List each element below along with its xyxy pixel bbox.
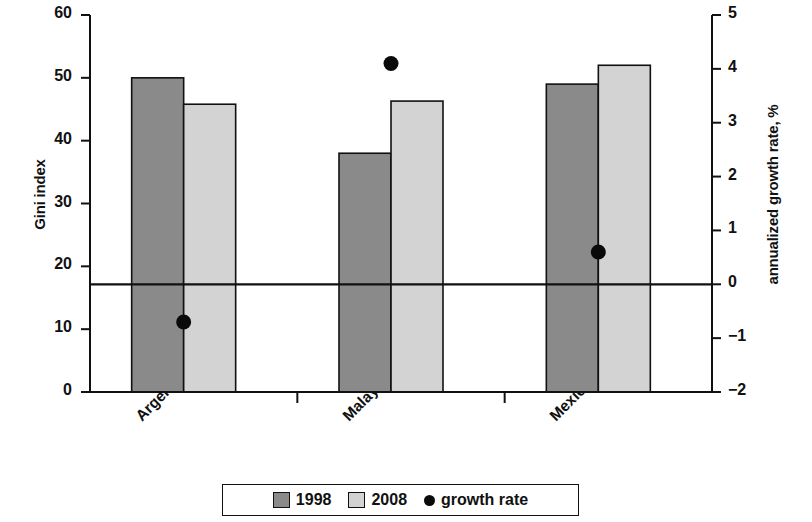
legend-item-2008: 2008 <box>348 491 407 509</box>
bar-2008-mexico <box>598 65 650 392</box>
bar-1998-argentina <box>132 78 184 392</box>
legend-label-1998: 1998 <box>296 491 332 509</box>
legend-label-growth-rate: growth rate <box>441 491 528 509</box>
legend-item-growth-rate: growth rate <box>424 491 528 509</box>
gini-growth-chart: Gini index annualized growth rate, % 010… <box>0 0 812 522</box>
bar-2008-malaysia <box>391 101 443 392</box>
growth-rate-dot-mexico <box>591 244 606 259</box>
legend-item-1998: 1998 <box>273 491 332 509</box>
chart-legend: 1998 2008 growth rate <box>222 484 579 516</box>
growth-rate-dot-malaysia <box>384 56 399 71</box>
legend-dot-marker-icon <box>424 495 435 506</box>
bar-1998-mexico <box>546 84 598 392</box>
legend-swatch-1998-icon <box>273 492 290 508</box>
bar-2008-argentina <box>184 104 236 392</box>
legend-swatch-2008-icon <box>348 492 365 508</box>
bar-1998-malaysia <box>339 153 391 392</box>
plot-area <box>0 0 812 522</box>
growth-rate-dot-argentina <box>176 314 191 329</box>
legend-label-2008: 2008 <box>371 491 407 509</box>
